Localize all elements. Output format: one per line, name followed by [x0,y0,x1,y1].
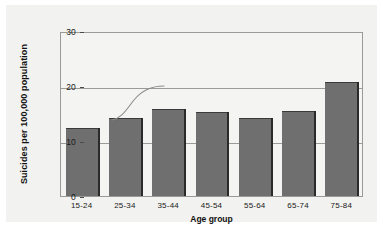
x-axis: 15-2425-3435-4445-5455-6465-7475-84 Age … [60,197,363,227]
bar-65-74 [282,111,316,196]
y-tick-mark-10 [80,142,84,143]
y-tick-10: 10 [36,137,76,147]
x-tick-55-64: 55-64 [244,201,265,210]
y-axis: Suicides per 100,000 population [6,5,60,222]
bar-25-34 [109,118,143,196]
bar-75-84 [325,82,359,196]
x-tick-25-34: 25-34 [114,201,135,210]
y-tick-mark-20 [80,87,84,88]
y-tick-mark-30 [80,32,84,33]
x-axis-label: Age group [60,214,363,224]
x-tick-65-74: 65-74 [287,201,308,210]
bar-35-44 [152,109,186,196]
bar-45-54 [196,112,230,196]
x-tick-75-84: 75-84 [331,201,352,210]
bar-55-64 [239,118,273,196]
figure-canvas: Suicides per 100,000 population 0102030 … [6,5,377,222]
y-tick-30: 30 [36,27,76,37]
x-tick-45-54: 45-54 [201,201,222,210]
x-tick-35-44: 35-44 [157,201,178,210]
y-axis-label: Suicides per 100,000 population [19,34,29,194]
y-tick-20: 20 [36,82,76,92]
x-tick-15-24: 15-24 [71,201,92,210]
bar-series [61,33,362,196]
plot-area [60,32,363,197]
